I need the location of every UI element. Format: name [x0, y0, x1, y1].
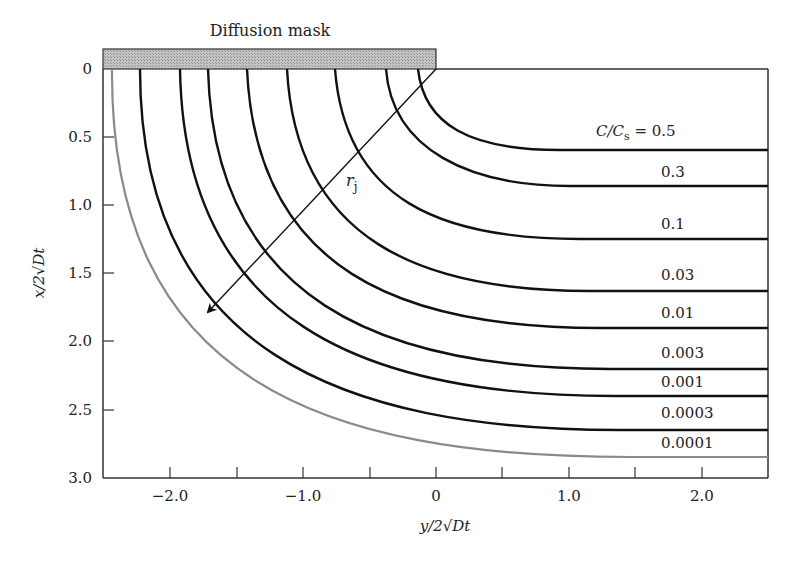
curve-0.03 — [287, 69, 768, 291]
rj-arrow — [208, 69, 436, 312]
curve-label: 0.1 — [661, 215, 685, 233]
diffusion-contour-figure: Diffusion mask 0 0.5 1.0 1.5 2.0 2.5 3.0 — [0, 0, 794, 562]
curve-0.01 — [247, 69, 768, 328]
curve-label: 0.01 — [661, 304, 694, 322]
y-tick-label: 1.0 — [68, 196, 92, 214]
curve-0.1 — [335, 69, 768, 239]
x-tick-label: 0 — [431, 487, 441, 505]
x-tick-label: −2.0 — [152, 487, 188, 505]
y-tick-label: 2.0 — [68, 332, 92, 350]
x-tick-label: 1.0 — [557, 487, 581, 505]
curve-labels: C/Cs = 0.5 0.3 0.1 0.03 0.01 0.003 0.001… — [596, 122, 714, 452]
y-axis-tick-labels: 0 0.5 1.0 1.5 2.0 2.5 3.0 — [68, 60, 92, 487]
x-axis-title: y/2√Dt — [419, 517, 472, 535]
mask-label: Diffusion mask — [210, 21, 331, 40]
curve-label: 0.3 — [661, 163, 685, 181]
y-tick-label: 1.5 — [68, 264, 92, 282]
x-tick-label: −1.0 — [285, 487, 321, 505]
curve-0.5 — [418, 69, 768, 150]
y-axis-ticks — [103, 137, 114, 410]
y-axis-title: x/2√Dt — [30, 247, 48, 299]
x-tick-label: 2.0 — [690, 487, 714, 505]
curve-label: 0.03 — [661, 266, 694, 284]
rj-label: rj — [346, 171, 357, 194]
curve-label: 0.001 — [661, 373, 704, 391]
diffusion-mask — [103, 49, 436, 69]
curve-label: 0.003 — [661, 344, 704, 362]
y-tick-label: 0 — [82, 60, 92, 78]
curve-label: 0.0003 — [661, 404, 714, 422]
x-axis-ticks — [170, 467, 702, 478]
curve-label: 0.0001 — [661, 434, 714, 452]
curve-label-first: C/Cs = 0.5 — [596, 122, 676, 143]
y-tick-label: 0.5 — [68, 128, 92, 146]
y-tick-label: 3.0 — [68, 469, 92, 487]
y-tick-label: 2.5 — [68, 401, 92, 419]
curve-0.3 — [386, 69, 768, 186]
x-axis-tick-labels: −2.0 −1.0 0 1.0 2.0 — [152, 487, 714, 505]
